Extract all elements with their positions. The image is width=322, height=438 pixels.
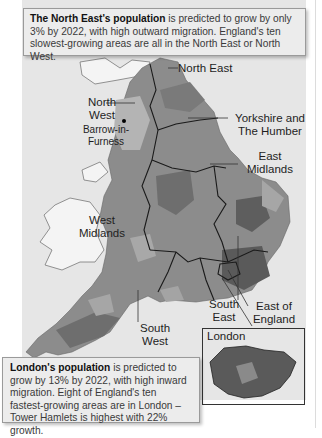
barrow-location-dot: [122, 119, 126, 123]
london-caption-body: is predicted to grow by 13% by 2022, wit…: [10, 362, 187, 436]
label-south-east: South East: [207, 298, 241, 324]
london-caption: London's population is predicted to grow…: [2, 357, 200, 423]
label-west-midlands: West Midlands: [72, 214, 132, 240]
label-north-east: North East: [178, 62, 232, 75]
london-inset-title: London: [207, 330, 245, 342]
label-east-midlands: East Midlands: [240, 150, 300, 176]
label-south-west: South West: [133, 322, 177, 348]
label-east-of-england: East of England: [250, 300, 298, 326]
london-caption-heading: London's population: [10, 362, 110, 373]
north-east-caption-heading: The North East's population: [30, 13, 165, 24]
isle-of-man-outline: [82, 162, 108, 182]
london-inset: London: [202, 328, 305, 405]
north-east-caption: The North East's population is predicted…: [23, 8, 306, 56]
label-north-west: North West: [84, 96, 120, 122]
label-yorkshire-humber: Yorkshire and The Humber: [228, 112, 312, 138]
label-barrow-in-furness: Barrow-in-Furness: [76, 124, 136, 148]
